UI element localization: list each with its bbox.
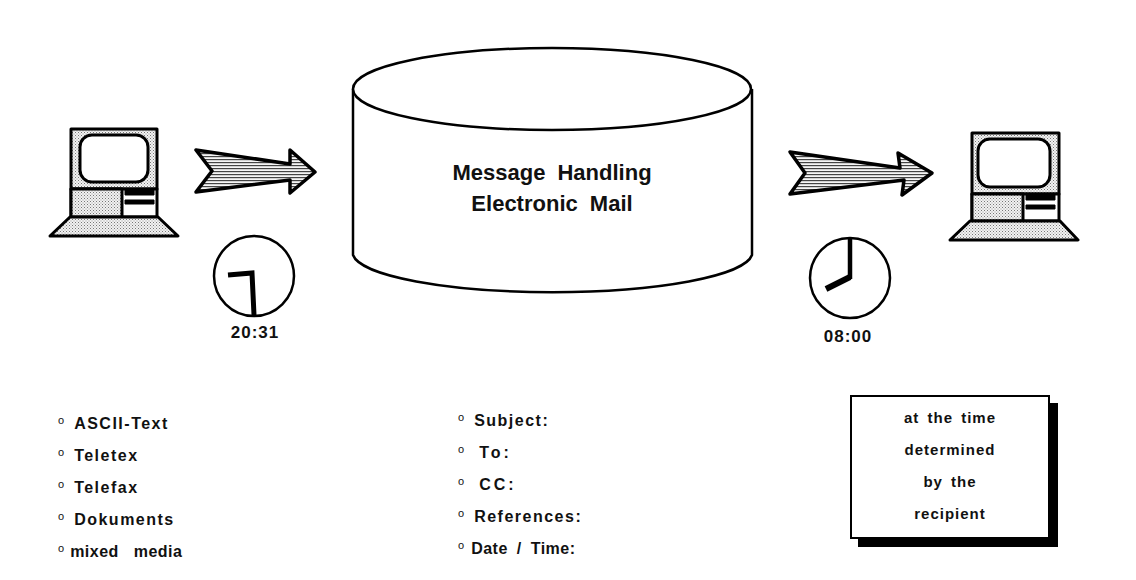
- bullet-icon: o: [458, 465, 464, 497]
- bullet-icon: o: [458, 401, 464, 433]
- bullet-icon: o: [58, 500, 64, 532]
- bullet-icon: o: [58, 532, 64, 564]
- note-line: at the time: [852, 402, 1048, 434]
- list-item: oASCII-Text: [58, 404, 182, 436]
- list-item: oTelefax: [58, 468, 182, 500]
- list-item: oReferences:: [458, 497, 582, 529]
- recipient-computer-icon: [950, 133, 1078, 240]
- note-line: by the: [852, 466, 1048, 498]
- delivery-time-label: 08:00: [798, 327, 898, 347]
- list-item: oDate / Time:: [458, 529, 582, 561]
- note-line: recipient: [852, 498, 1048, 530]
- header-fields-list: oSubject: oTo: oCC: oReferences: oDate /…: [458, 401, 582, 561]
- send-arrow-icon: [196, 150, 315, 193]
- list-item: oCC:: [458, 465, 582, 497]
- list-item: oDokuments: [58, 500, 182, 532]
- send-time-clock-icon: [214, 236, 294, 316]
- central-title-line1: Message Handling: [352, 160, 752, 186]
- bullet-icon: o: [458, 497, 464, 529]
- delivery-note-box: at the time determined by the recipient: [850, 395, 1050, 539]
- bullet-icon: o: [458, 529, 464, 561]
- bullet-icon: o: [58, 468, 64, 500]
- deliver-arrow-icon: [790, 152, 932, 195]
- central-title-line2: Electronic Mail: [352, 191, 752, 217]
- bullet-icon: o: [458, 433, 464, 465]
- note-line: determined: [852, 434, 1048, 466]
- bullet-icon: o: [58, 436, 64, 468]
- list-item: omixed media: [58, 532, 182, 564]
- bullet-icon: o: [58, 404, 64, 436]
- sender-computer-icon: [50, 129, 178, 236]
- delivery-time-clock-icon: [810, 238, 890, 318]
- content-types-list: oASCII-Text oTeletex oTelefax oDokuments…: [58, 404, 182, 564]
- list-item: oTeletex: [58, 436, 182, 468]
- list-item: oTo:: [458, 433, 582, 465]
- send-time-label: 20:31: [205, 323, 305, 343]
- list-item: oSubject:: [458, 401, 582, 433]
